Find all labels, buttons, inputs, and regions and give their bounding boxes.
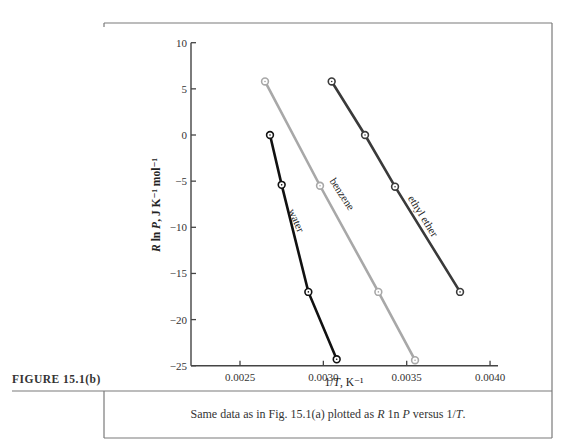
y-tick-label: −10 (170, 221, 188, 233)
data-point-dot (459, 291, 461, 293)
figure-label: FIGURE 15.1(b) (12, 373, 101, 386)
series-benzene: benzene (262, 78, 419, 364)
x-tick-label: 0.0025 (225, 371, 256, 383)
data-point-dot (264, 81, 266, 83)
y-tick-label: −5 (175, 175, 187, 187)
data-point-dot (378, 291, 380, 293)
y-tick-label: −25 (170, 360, 188, 372)
series-line (265, 81, 415, 360)
figure-caption: Same data as in Fig. 15.1(a) plotted as … (190, 407, 465, 421)
data-point-dot (319, 185, 321, 187)
y-tick-label: −20 (170, 314, 188, 326)
data-point-dot (336, 358, 338, 360)
data-point-dot (414, 359, 416, 361)
y-tick-label: 5 (182, 83, 188, 95)
series-layer: waterbenzeneethyl ether (262, 78, 464, 364)
x-tick-label: 0.0035 (392, 371, 423, 383)
figure: 1050−5−10−15−20−250.00250.00300.00350.00… (0, 0, 576, 443)
y-tick-label: 0 (182, 129, 188, 141)
data-point-dot (281, 184, 283, 186)
data-point-dot (364, 134, 366, 136)
data-point-dot (308, 291, 310, 293)
y-tick-label: 10 (176, 37, 188, 49)
data-point-dot (269, 134, 271, 136)
series-ethyl-ether: ethyl ether (328, 78, 463, 295)
y-axis-title: R ln P, J K⁻¹ mol⁻¹ (150, 158, 162, 253)
x-axis-title: 1/T, K⁻¹ (325, 376, 364, 389)
x-tick-label: 0.0040 (475, 371, 506, 383)
y-tick-label: −15 (170, 267, 188, 279)
series-water: water (267, 132, 340, 363)
data-point-dot (394, 186, 396, 188)
series-line (270, 135, 337, 359)
data-point-dot (331, 81, 333, 83)
